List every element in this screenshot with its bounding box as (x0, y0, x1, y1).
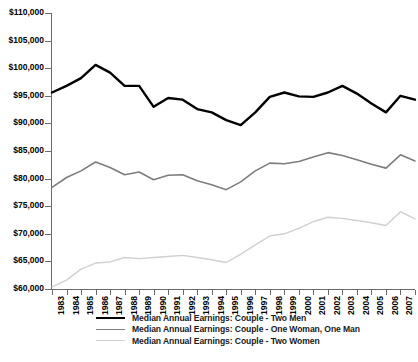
legend-item[interactable]: Median Annual Earnings: Couple - Two Men (96, 312, 418, 324)
legend-label: Median Annual Earnings: Couple - Two Men (132, 313, 306, 323)
series-lines (0, 0, 418, 362)
legend-label: Median Annual Earnings: Couple - Two Wom… (132, 336, 320, 346)
earnings-line-chart: $110,000$105,000$100,000$95,000$90,000$8… (0, 0, 418, 362)
series-line-2 (52, 212, 415, 287)
series-line-1 (52, 153, 415, 190)
legend-item[interactable]: Median Annual Earnings: Couple - Two Wom… (96, 335, 418, 347)
legend-swatch-icon (96, 317, 125, 319)
legend-swatch-icon (96, 340, 125, 341)
series-line-0 (52, 65, 415, 125)
chart-legend: Median Annual Earnings: Couple - Two Men… (96, 312, 418, 347)
legend-swatch-icon (96, 329, 125, 330)
legend-item[interactable]: Median Annual Earnings: Couple - One Wom… (96, 324, 418, 336)
legend-label: Median Annual Earnings: Couple - One Wom… (132, 324, 360, 334)
